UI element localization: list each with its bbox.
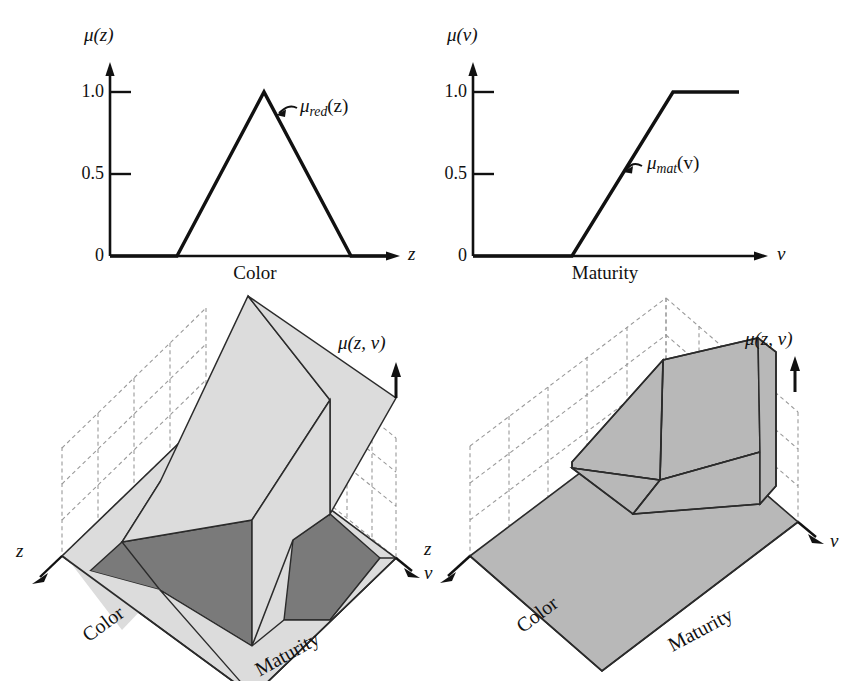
y-tick-label-1: 1.0 <box>425 81 467 102</box>
curve-label-subscript: mat <box>657 161 678 176</box>
y-tick-label-2: 0.5 <box>62 163 104 184</box>
z-axis-arrow <box>440 556 470 583</box>
mu-axis-arrow <box>790 356 800 392</box>
x-axis-symbol-v: v <box>777 243 785 265</box>
chart-mu-mat-v <box>420 0 851 290</box>
z-axis-arrow <box>32 556 62 584</box>
curve-label-subscript: red <box>310 104 328 119</box>
curve-label-argument: (z) <box>327 95 348 116</box>
surface-ramp-left <box>572 360 663 480</box>
mu-axis-title: μ(z, v) <box>745 328 793 350</box>
mu-axis-title: μ(z, v) <box>338 332 386 354</box>
v-axis-title: v <box>830 530 838 552</box>
panel-mu-red-z: μ(z) 1.0 0.5 0 z Color μred(z) <box>0 0 430 290</box>
v-axis-arrow <box>396 558 420 578</box>
surface-face-right-cliff <box>758 338 776 504</box>
x-axis-symbol-z: z <box>408 243 415 265</box>
y-tick-marks <box>110 92 131 174</box>
curve-label-mu-red-z: μred(z) <box>300 95 348 120</box>
y-tick-marks <box>473 92 494 174</box>
x-axis-caption-color: Color <box>180 262 330 284</box>
z-axis-title: z <box>16 540 23 562</box>
y-tick-label-2: 0.5 <box>425 163 467 184</box>
curve-label-mu-glyph: μ <box>300 95 310 116</box>
z-axis-title: z <box>424 538 431 560</box>
y-tick-label-1: 1.0 <box>62 81 104 102</box>
curve-label-mu-glyph: μ <box>647 152 657 173</box>
panel-surface-min: μ(z, v) z v Color Maturity <box>420 290 851 585</box>
panel-mu-mat-v: μ(v) 1.0 0.5 0 v Maturity μmat(v) <box>420 0 851 290</box>
curve-label-mu-mat-v: μmat(v) <box>647 152 699 177</box>
caption-color: Color <box>78 601 128 646</box>
y-axis-title-mu-z: μ(z) <box>84 24 114 46</box>
panel-surface-max: μ(z, v) z v Color Maturity <box>0 290 430 585</box>
curve-label-argument: (v) <box>677 152 699 173</box>
v-axis-arrow <box>798 522 824 544</box>
mu-axis-arrow <box>391 362 401 398</box>
curve-leader-arrow <box>276 106 297 117</box>
y-tick-label-3: 0 <box>425 245 467 266</box>
y-axis-title-mu-v: μ(v) <box>447 24 478 46</box>
y-tick-label-3: 0 <box>62 245 104 266</box>
x-axis-caption-maturity: Maturity <box>530 262 680 284</box>
